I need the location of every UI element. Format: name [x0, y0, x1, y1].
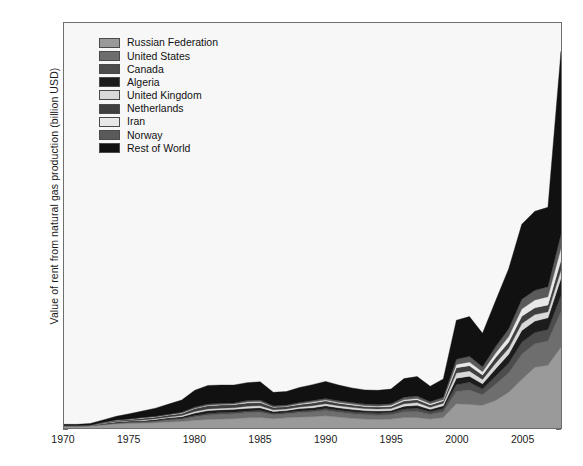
- legend-label: Norway: [127, 130, 163, 141]
- legend-label: United States: [127, 51, 190, 62]
- legend-label: Iran: [127, 116, 145, 127]
- legend-label: United Kingdom: [127, 90, 202, 101]
- legend-swatch-icon: [99, 38, 120, 48]
- legend-swatch-icon: [99, 117, 120, 127]
- legend-label: Russian Federation: [127, 37, 218, 48]
- legend-label: Algeria: [127, 77, 160, 88]
- y-tick-mark-right: [556, 429, 561, 430]
- legend-swatch-icon: [99, 64, 120, 74]
- legend-item[interactable]: Netherlands: [99, 102, 218, 115]
- x-tick-label: 1970: [51, 433, 74, 445]
- legend-swatch-icon: [99, 104, 120, 114]
- legend-swatch-icon: [99, 90, 120, 100]
- legend-swatch-icon: [99, 51, 120, 61]
- x-tick-label: 1990: [314, 433, 337, 445]
- legend-item[interactable]: Norway: [99, 128, 218, 141]
- legend-item[interactable]: Algeria: [99, 76, 218, 89]
- legend-item[interactable]: United States: [99, 49, 218, 62]
- legend-item[interactable]: Russian Federation: [99, 36, 218, 49]
- legend-label: Rest of World: [127, 143, 190, 154]
- x-tick-label: 2000: [445, 433, 468, 445]
- legend-item[interactable]: Canada: [99, 62, 218, 75]
- legend-label: Canada: [127, 64, 164, 75]
- legend-swatch-icon: [99, 130, 120, 140]
- chart-figure: Value of rent from natural gas productio…: [0, 0, 583, 466]
- legend-swatch-icon: [99, 143, 120, 153]
- legend-item[interactable]: Rest of World: [99, 142, 218, 155]
- legend-item[interactable]: Iran: [99, 115, 218, 128]
- legend-item[interactable]: United Kingdom: [99, 89, 218, 102]
- legend-label: Netherlands: [127, 103, 184, 114]
- legend-swatch-icon: [99, 77, 120, 87]
- x-tick-label: 1975: [117, 433, 140, 445]
- y-tick-mark: [63, 429, 68, 430]
- x-tick-label: 1980: [183, 433, 206, 445]
- x-tick-label: 1995: [380, 433, 403, 445]
- x-tick-label: 1985: [248, 433, 271, 445]
- y-axis-title: Value of rent from natural gas productio…: [48, 46, 60, 346]
- x-tick-label: 2005: [511, 433, 534, 445]
- chart-legend: Russian FederationUnited StatesCanadaAlg…: [99, 36, 218, 155]
